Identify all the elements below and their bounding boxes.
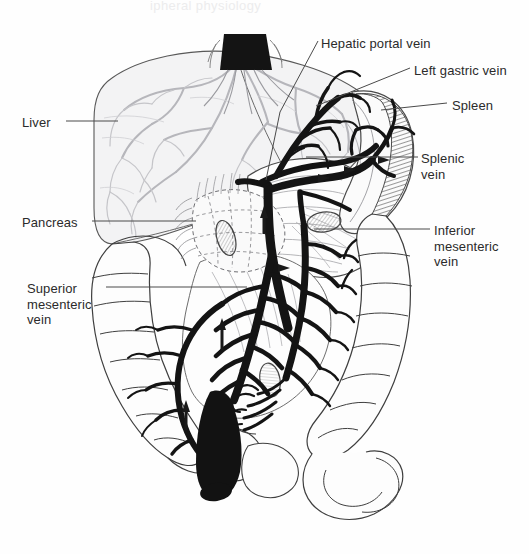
label-inferior-mesenteric-vein: Inferior mesenteric vein xyxy=(434,223,499,270)
label-hepatic-portal-vein: Hepatic portal vein xyxy=(321,36,431,52)
ivc-stump-shape xyxy=(220,34,272,70)
label-pancreas: Pancreas xyxy=(22,215,78,231)
label-spleen: Spleen xyxy=(452,98,493,114)
anatomical-figure: ipheral physiology xyxy=(0,0,529,554)
label-superior-mesenteric-vein: Superior mesenteric vein xyxy=(27,281,92,328)
label-splenic-vein: Splenic vein xyxy=(421,151,464,182)
sigmoid-colon xyxy=(303,451,403,519)
hepatic-portal-system-illustration xyxy=(0,0,529,554)
label-left-gastric-vein: Left gastric vein xyxy=(414,63,507,79)
label-liver: Liver xyxy=(22,115,51,131)
